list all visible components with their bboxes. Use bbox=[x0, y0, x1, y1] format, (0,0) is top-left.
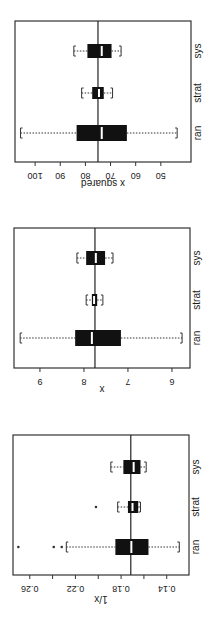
plot-frame bbox=[13, 435, 189, 575]
category-label-sys: sys bbox=[192, 44, 203, 59]
median-line bbox=[91, 332, 93, 344]
tick-label: 6 bbox=[169, 377, 174, 387]
boxplot-panel-1: ranstratsys1009080706050x squared bbox=[15, 21, 203, 189]
axis-title: x squared bbox=[81, 178, 125, 189]
boxplot-panel-3: ranstratsys0.260.220.180.141/x bbox=[13, 435, 201, 605]
axis-title: x bbox=[100, 384, 105, 395]
box-ran bbox=[20, 330, 182, 346]
outlier-point bbox=[52, 546, 55, 549]
category-label-sys: sys bbox=[190, 460, 201, 475]
median-line bbox=[95, 253, 97, 263]
category-label-strat: strat bbox=[190, 497, 201, 517]
box-strat bbox=[82, 87, 113, 99]
tick-label: 9 bbox=[37, 377, 42, 387]
median-line bbox=[101, 127, 103, 139]
outlier-point bbox=[95, 506, 98, 509]
tick-label: 8 bbox=[81, 377, 86, 387]
plot-frame bbox=[14, 228, 190, 368]
category-label-strat: strat bbox=[192, 83, 203, 103]
box-strat bbox=[86, 294, 103, 306]
tick-label: 0.26 bbox=[21, 584, 39, 594]
category-label-sys: sys bbox=[191, 251, 202, 266]
median-line bbox=[93, 296, 95, 304]
median-line bbox=[101, 46, 103, 56]
median-line bbox=[130, 541, 132, 553]
category-label-ran: ran bbox=[190, 540, 201, 554]
boxplot-figure: ranstratsys1009080706050x squaredranstra… bbox=[0, 0, 215, 618]
outlier-point bbox=[17, 546, 20, 549]
median-line bbox=[133, 462, 135, 472]
tick-label: 90 bbox=[55, 171, 65, 181]
box-ran bbox=[17, 539, 179, 555]
box-sys bbox=[74, 44, 121, 58]
box-sys bbox=[111, 460, 146, 474]
box-ran bbox=[21, 125, 178, 141]
category-label-ran: ran bbox=[191, 331, 202, 345]
median-line bbox=[98, 89, 100, 97]
category-label-strat: strat bbox=[191, 290, 202, 310]
tick-label: 0.14 bbox=[158, 584, 176, 594]
boxplot-panel-2: ranstratsys9876x bbox=[14, 228, 202, 395]
axis-title: 1/x bbox=[94, 594, 107, 605]
tick-label: 0.22 bbox=[67, 584, 85, 594]
outlier-point bbox=[60, 546, 63, 549]
tick-label: 60 bbox=[131, 171, 141, 181]
box-strat bbox=[95, 501, 141, 513]
category-label-ran: ran bbox=[192, 126, 203, 140]
tick-label: 50 bbox=[156, 171, 166, 181]
tick-label: 100 bbox=[28, 171, 43, 181]
tick-label: 0.18 bbox=[112, 584, 130, 594]
median-line bbox=[132, 503, 134, 511]
box-sys bbox=[77, 251, 113, 265]
tick-label: 7 bbox=[125, 377, 130, 387]
